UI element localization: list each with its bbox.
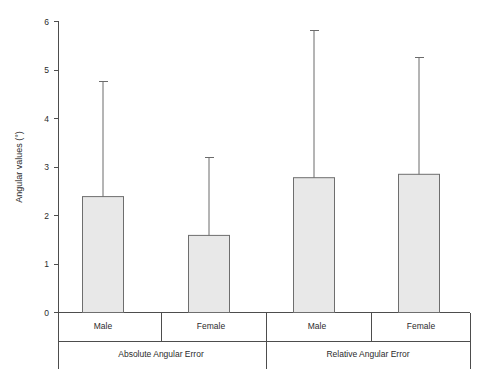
bar-rect xyxy=(83,197,124,313)
y-tick-label-1: 1 xyxy=(44,259,49,269)
group-axis-band: Absolute Angular Error Relative Angular … xyxy=(59,341,471,369)
y-tick-label-3: 3 xyxy=(44,162,49,172)
x-group-label-relative: Relative Angular Error xyxy=(326,349,409,359)
y-tick-label-4: 4 xyxy=(44,114,49,124)
x-category-label-absolute-female: Female xyxy=(197,321,226,331)
x-category-label-relative-male: Male xyxy=(308,321,327,331)
bar-group-relative-male xyxy=(294,31,335,313)
y-axis-ticks xyxy=(54,22,59,313)
bar-chart-with-error-bars: 0 1 2 3 4 5 6 Angular values (°) xyxy=(0,0,497,380)
bar-rect xyxy=(294,178,335,313)
bar-group-absolute-male xyxy=(83,82,124,313)
x-category-label-relative-female: Female xyxy=(407,321,436,331)
bar-rect xyxy=(399,174,440,312)
bar-group-relative-female xyxy=(399,57,440,312)
category-axis-band: Male Female Male Female xyxy=(59,313,471,341)
y-tick-label-6: 6 xyxy=(44,17,49,27)
y-tick-label-0: 0 xyxy=(44,308,49,318)
y-tick-label-5: 5 xyxy=(44,65,49,75)
y-axis-tick-labels: 0 1 2 3 4 5 6 xyxy=(44,17,49,318)
y-tick-label-2: 2 xyxy=(44,211,49,221)
chart-container: 0 1 2 3 4 5 6 Angular values (°) xyxy=(0,0,497,380)
x-group-label-absolute: Absolute Angular Error xyxy=(118,349,204,359)
bar-rect xyxy=(189,235,230,312)
y-axis-title: Angular values (°) xyxy=(14,131,24,203)
bar-group-absolute-female xyxy=(189,157,230,312)
x-category-label-absolute-male: Male xyxy=(94,321,113,331)
